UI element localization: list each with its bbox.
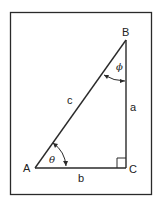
side-c	[35, 40, 126, 168]
side-label-c: c	[67, 94, 73, 106]
vertex-label-a: A	[23, 162, 31, 174]
angle-label-theta: θ	[49, 154, 55, 165]
angle-label-phi: ϕ	[116, 61, 123, 72]
right-angle-marker	[117, 158, 126, 168]
theta-arrowhead-1	[53, 143, 58, 148]
phi-arrowhead-2	[120, 79, 125, 83]
side-label-b: b	[78, 172, 84, 184]
vertex-label-b: B	[122, 26, 129, 38]
side-label-a: a	[130, 101, 137, 113]
vertex-label-c: C	[129, 163, 137, 175]
triangle-diagram: B A C a c b θ ϕ	[0, 0, 161, 203]
